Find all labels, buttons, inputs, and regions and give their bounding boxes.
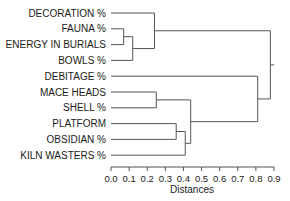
x-tick-label: 0.1 [123,173,136,184]
x-axis-title: Distances [170,184,214,195]
leaf-label: FAUNA % [62,23,107,34]
x-tick-label: 0.7 [231,173,244,184]
x-tick-label: 0.8 [249,173,262,184]
x-tick-label: 0.5 [195,173,208,184]
leaf-label: MACE HEADS [40,87,106,98]
leaf-label: PLATFORM [52,118,106,129]
leaf-label: SHELL % [63,102,106,113]
dendrogram-chart: DECORATION %FAUNA %ENERGY IN BURIALSBOWL… [0,0,290,201]
leaf-labels: DECORATION %FAUNA %ENERGY IN BURIALSBOWL… [6,8,107,161]
x-tick-label: 0.9 [267,173,280,184]
branches [111,13,274,155]
leaf-label: KILN WASTERS % [20,150,106,161]
x-tick-label: 0.0 [104,173,117,184]
x-tick-label: 0.4 [177,173,190,184]
leaf-label: DECORATION % [28,8,106,19]
leaf-label: ENERGY IN BURIALS [6,39,107,50]
x-tick-label: 0.6 [213,173,226,184]
leaf-label: BOWLS % [58,55,106,66]
leaf-label: DEBITAGE % [45,71,107,82]
x-tick-label: 0.2 [141,173,154,184]
leaf-label: OBSIDIAN % [47,134,107,145]
x-axis: 0.00.10.20.30.40.50.60.70.80.9 [104,167,280,184]
x-tick-label: 0.3 [159,173,172,184]
